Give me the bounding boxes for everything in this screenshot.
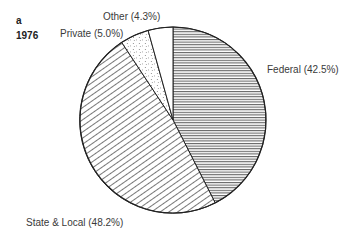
label-other: Other (4.3%) [103, 11, 160, 22]
label-private: Private (5.0%) [60, 28, 123, 39]
label-state-local: State & Local (48.2%) [26, 217, 123, 228]
label-federal: Federal (42.5%) [267, 64, 339, 75]
pie-chart [0, 0, 354, 246]
panel-letter: a [16, 15, 22, 26]
chart-year: 1976 [16, 30, 38, 41]
